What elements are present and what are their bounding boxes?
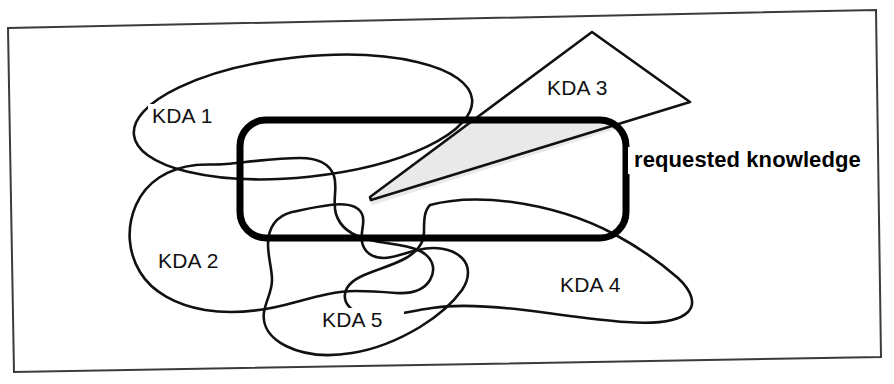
kda-2-label: KDA 2 bbox=[158, 249, 219, 272]
kda-1-label: KDA 1 bbox=[152, 104, 213, 127]
requested-knowledge-label: requested knowledge bbox=[634, 147, 861, 172]
diagram-svg: KDA 1 KDA 2 KDA 3 KDA 4 KDA 5 requested … bbox=[0, 0, 894, 384]
page-background bbox=[0, 0, 894, 384]
kda-3-label: KDA 3 bbox=[547, 76, 608, 99]
diagram-canvas: KDA 1 KDA 2 KDA 3 KDA 4 KDA 5 requested … bbox=[0, 0, 894, 384]
kda-5-label: KDA 5 bbox=[322, 308, 383, 331]
kda-4-label: KDA 4 bbox=[560, 273, 621, 296]
